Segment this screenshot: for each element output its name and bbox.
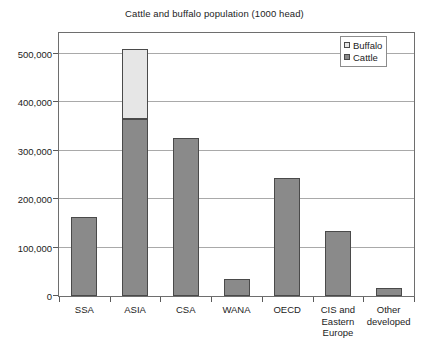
legend-label: Cattle [353, 52, 378, 63]
y-axis-tick-label: 0 [47, 291, 52, 302]
x-axis-category-line: WANA [211, 304, 262, 316]
x-axis-category-label: CSA [160, 304, 211, 316]
y-axis: 500,000400,000300,000200,000100,0000 [0, 32, 58, 297]
bar-group[interactable] [376, 54, 402, 296]
x-axis-tick-mark [363, 297, 364, 302]
bar-segment-cattle[interactable] [173, 138, 199, 296]
y-axis-tick-label: 300,000 [18, 145, 52, 156]
chart-container: Cattle and buffalo population (1000 head… [0, 0, 429, 353]
x-axis-category-line: CIS and [313, 304, 364, 316]
x-axis: SSAASIACSAWANAOECDCIS andEasternEuropeOt… [58, 297, 415, 353]
y-axis-tick-label: 500,000 [18, 49, 52, 60]
bar-segment-cattle[interactable] [224, 279, 250, 296]
x-axis-category-line: developed [363, 316, 414, 328]
y-axis-tick-label: 400,000 [18, 97, 52, 108]
x-axis-category-label: Otherdeveloped [363, 304, 414, 327]
x-axis-category-line: CSA [160, 304, 211, 316]
y-axis-tick-label: 200,000 [18, 194, 52, 205]
x-axis-category-label: CIS andEasternEurope [313, 304, 364, 339]
bar-group[interactable] [274, 54, 300, 296]
x-axis-category-line: ASIA [110, 304, 161, 316]
bar-segment-cattle[interactable] [325, 231, 351, 296]
x-axis-category-line: SSA [59, 304, 110, 316]
bar-segment-cattle[interactable] [122, 119, 148, 296]
x-axis-tick-mark [313, 297, 314, 302]
bar-group[interactable] [71, 54, 97, 296]
y-axis-tick-label: 100,000 [18, 242, 52, 253]
x-axis-category-label: OECD [262, 304, 313, 316]
bar-group[interactable] [122, 54, 148, 296]
x-axis-tick-mark [211, 297, 212, 302]
bar-segment-cattle[interactable] [71, 217, 97, 296]
x-axis-category-line: Europe [313, 327, 364, 339]
x-axis-category-line: Eastern [313, 316, 364, 328]
bar-segment-buffalo[interactable] [122, 49, 148, 119]
legend-item[interactable]: Buffalo [344, 39, 382, 51]
x-axis-tick-mark [59, 297, 60, 302]
bar-group[interactable] [325, 54, 351, 296]
x-axis-tick-mark [160, 297, 161, 302]
bar-group[interactable] [173, 54, 199, 296]
x-axis-category-label: SSA [59, 304, 110, 316]
x-axis-category-label: ASIA [110, 304, 161, 316]
x-axis-category-label: WANA [211, 304, 262, 316]
chart-legend: BuffaloCattle [340, 36, 387, 67]
bar-segment-cattle[interactable] [376, 288, 402, 296]
legend-item[interactable]: Cattle [344, 51, 382, 63]
x-axis-tick-mark [262, 297, 263, 302]
x-axis-tick-mark [110, 297, 111, 302]
x-axis-category-line: Other [363, 304, 414, 316]
x-axis-tick-mark [414, 297, 415, 302]
x-axis-category-line: OECD [262, 304, 313, 316]
legend-swatch-icon [344, 54, 350, 60]
chart-title: Cattle and buffalo population (1000 head… [0, 8, 429, 19]
bar-segment-cattle[interactable] [274, 178, 300, 296]
legend-label: Buffalo [353, 40, 382, 51]
bar-group[interactable] [224, 54, 250, 296]
legend-swatch-icon [344, 42, 350, 48]
